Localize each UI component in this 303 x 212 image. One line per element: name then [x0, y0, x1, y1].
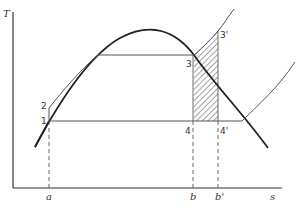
point-3-label: 3	[186, 59, 192, 69]
point-1-label: 1	[41, 116, 47, 126]
point-4p-label: 4'	[220, 126, 228, 136]
tick-b-label: b	[190, 191, 196, 202]
y-axis-label: T	[3, 8, 11, 19]
x-axis-label: s	[270, 191, 275, 202]
point-3p-label: 3'	[220, 30, 228, 40]
point-4-label: 4	[185, 126, 191, 136]
tick-bp-label: b'	[215, 191, 224, 202]
isobar-right	[242, 62, 295, 121]
tick-a-label: a	[46, 191, 52, 202]
ts-diagram: T s 1 2 3 3' 4 4' a b b'	[0, 0, 303, 212]
saturation-dome	[35, 30, 268, 148]
point-2-label: 2	[41, 101, 47, 111]
